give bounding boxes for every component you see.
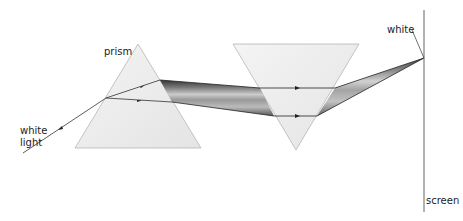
prism-recombination-diagram: prism white light white screen [0, 0, 463, 221]
white-label: white [387, 24, 414, 35]
white-light-label-line1: white [20, 125, 47, 136]
prism-label: prism [104, 46, 132, 57]
screen-label: screen [426, 195, 459, 206]
white-light-label-line2: light [20, 137, 42, 148]
